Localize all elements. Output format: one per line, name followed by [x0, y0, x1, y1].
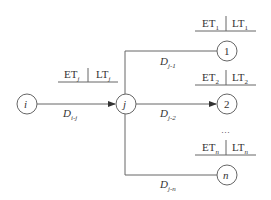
node-1-label: 1	[224, 45, 230, 57]
et-n: ETn	[202, 141, 219, 158]
et-j: ETj	[64, 68, 79, 85]
edge-label-j-n: Dj-n	[160, 178, 176, 195]
edge-label-j-2: Dj-2	[160, 107, 176, 124]
diagram-canvas	[0, 0, 271, 200]
node-i-label: i	[24, 98, 27, 110]
ellipsis: …	[221, 124, 230, 136]
et-2: ET2	[202, 71, 219, 88]
node-2-label: 2	[224, 98, 230, 110]
node-n-label: n	[223, 169, 229, 181]
lt-j: LTj	[96, 68, 110, 85]
lt-n: LTn	[232, 141, 248, 158]
node-j-label: j	[123, 98, 126, 110]
edge-label-i-j: Di-j	[63, 107, 77, 124]
lt-2: LT2	[232, 71, 248, 88]
lt-1: LT1	[232, 17, 248, 34]
edge-label-j-1: Dj-1	[160, 55, 176, 72]
et-1: ET1	[202, 17, 219, 34]
